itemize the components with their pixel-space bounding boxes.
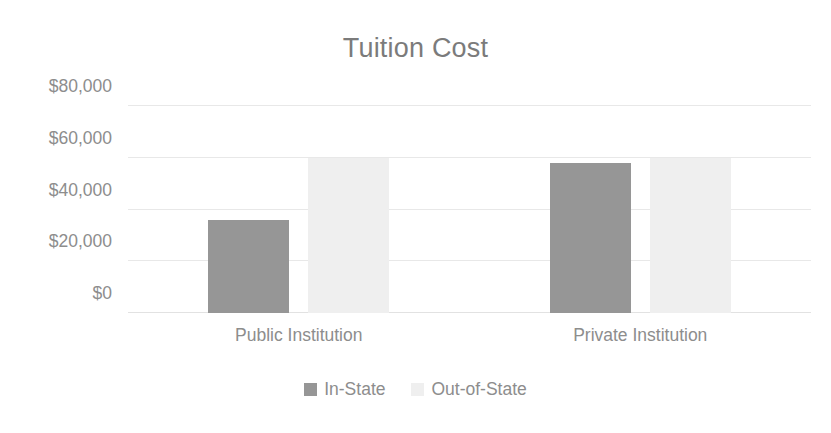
y-axis-labels: $0$20,000$40,000$60,000$80,000 bbox=[0, 106, 112, 313]
y-axis-tick-label: $0 bbox=[0, 283, 112, 303]
tuition-cost-chart: Tuition Cost $0$20,000$40,000$60,000$80,… bbox=[0, 0, 831, 433]
legend-swatch-icon bbox=[304, 383, 317, 396]
x-axis-category-label: Public Institution bbox=[128, 322, 470, 348]
x-axis-labels: Public InstitutionPrivate Institution bbox=[128, 322, 811, 352]
x-axis-category-label: Private Institution bbox=[470, 322, 812, 348]
legend-label: In-State bbox=[324, 378, 385, 400]
bar-in-state-private-institution[interactable] bbox=[550, 163, 631, 313]
legend-label: Out-of-State bbox=[431, 378, 526, 400]
y-axis-tick-label: $20,000 bbox=[0, 231, 112, 251]
y-axis-tick-label: $60,000 bbox=[0, 128, 112, 148]
legend-swatch-icon bbox=[411, 383, 424, 396]
chart-legend: In-StateOut-of-State bbox=[0, 378, 831, 400]
bar-out-of-state-public-institution[interactable] bbox=[308, 158, 389, 313]
bar-in-state-public-institution[interactable] bbox=[208, 220, 289, 313]
chart-title: Tuition Cost bbox=[0, 32, 831, 64]
y-axis-tick-label: $80,000 bbox=[0, 76, 112, 96]
y-axis-tick-label: $40,000 bbox=[0, 180, 112, 200]
legend-item[interactable]: In-State bbox=[304, 378, 385, 400]
bar-out-of-state-private-institution[interactable] bbox=[650, 158, 731, 313]
bars-layer bbox=[128, 106, 811, 313]
legend-item[interactable]: Out-of-State bbox=[411, 378, 526, 400]
